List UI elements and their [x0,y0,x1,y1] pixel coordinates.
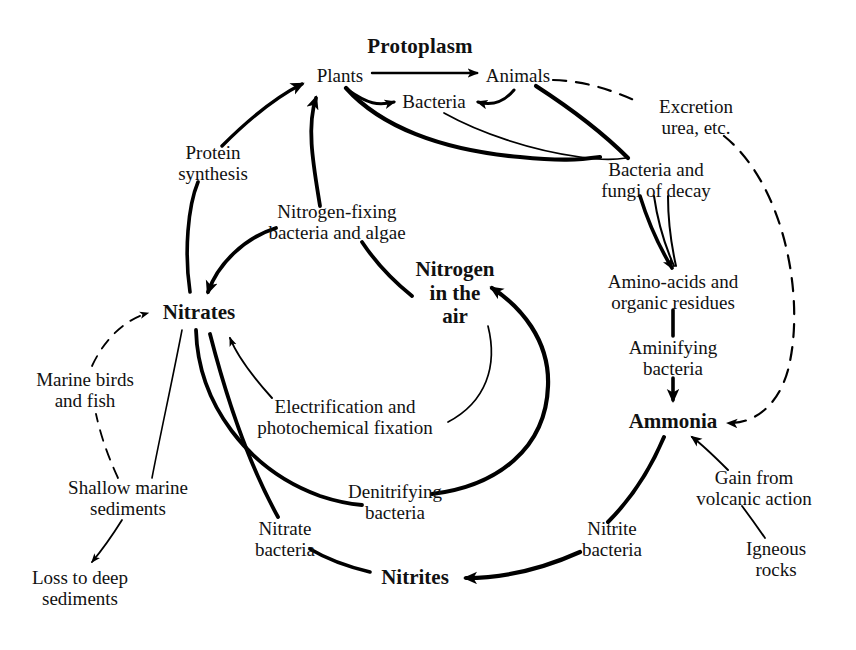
diagram-node-ammonia: Ammonia [629,410,718,434]
edge-shallow-to-lossdeep [92,520,122,562]
edge-nitritebact-to-nitrites [466,552,580,578]
diagram-node-decay: Bacteria and fungi of decay [601,159,711,202]
edge-nitrites-to-nitratebact [310,549,370,572]
diagram-node-igneous: Igneous rocks [746,538,806,581]
diagram-node-gainvolcanic: Gain from volcanic action [696,467,812,510]
edge-gain-to-ammonia [692,437,728,470]
diagram-node-marinebirds: Marine birds and fish [36,369,134,412]
diagram-node-plants: Plants [317,65,363,86]
diagram-node-bacteria: Bacteria [402,91,465,112]
diagram-node-protoplasm: Protoplasm [367,35,472,59]
edge-bacteria-to-decay [444,113,626,159]
diagram-node-nitrites: Nitrites [381,566,449,590]
edge-marinebirds-to-nitrates [92,313,148,366]
edge-plants-to-bacteria [348,90,394,104]
diagram-node-animals: Animals [486,65,550,86]
edge-electrif-to-nitrates [230,338,272,398]
edge-ammonia-to-nitritebact [608,437,664,522]
nitrogen-cycle-diagram: ProtoplasmPlantsAnimalsBacteriaExcretion… [0,0,856,650]
diagram-node-nitratebact: Nitrate bacteria [255,518,315,561]
diagram-node-lossdeep: Loss to deep sediments [32,567,128,610]
edge-animals-to-excretion [553,80,634,100]
diagram-node-excretion: Excretion urea, etc. [659,96,733,139]
edge-nitrates-to-protein [187,182,198,292]
edge-animals-to-decay [536,86,628,158]
diagram-node-nair: Nitrogen in the air [416,258,495,329]
diagram-node-nitritebact: Nitrite bacteria [582,518,642,561]
edge-shallow-to-marinebirds [96,414,118,478]
edge-decay-to-amino-b [654,196,674,266]
diagram-node-protein: Protein synthesis [178,142,248,185]
edge-nair-to-nfixing [362,242,412,296]
diagram-node-aminifying: Aminifying bacteria [629,337,718,380]
edge-decay-to-amino-c [668,196,676,266]
edge-decay-to-amino-a [640,196,672,268]
diagram-node-denitrifying: Denitrifying bacteria [348,481,442,524]
edge-animals-to-bacteria [478,90,514,104]
diagram-node-shallow: Shallow marine sediments [68,477,188,520]
edge-nair-to-electrif [448,326,491,422]
edge-nfixing-to-nitrates [208,228,276,292]
diagram-node-nfixing: Nitrogen-fixing bacteria and algae [268,201,405,244]
edge-protein-to-plants [222,84,302,146]
edge-igneous-to-gain [742,506,765,538]
edge-nitrates-to-shallow [152,330,182,478]
edge-plants-to-decay [346,88,600,160]
diagram-node-amino: Amino-acids and organic residues [608,271,738,314]
diagram-node-electrif: Electrification and photochemical fixati… [257,396,433,439]
diagram-node-nitrates: Nitrates [163,301,235,325]
edge-nfixing-to-plants [311,98,320,206]
